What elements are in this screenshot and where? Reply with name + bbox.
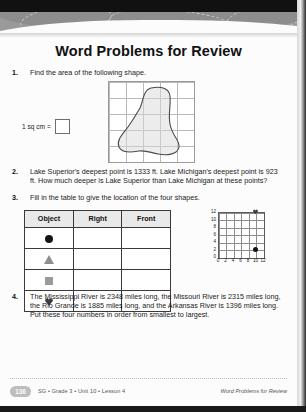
problem-1-figure: 1 sq cm = <box>0 79 297 165</box>
triangle-shape-icon <box>44 255 54 264</box>
y-tick-label: 10 <box>205 217 216 222</box>
page-number-badge: 136 <box>10 386 31 397</box>
footer-lesson-title: Word Problems for Review <box>220 388 287 394</box>
y-tick-label: 12 <box>205 209 216 214</box>
problem-2: 2. Lake Superior's deepest point is 1333… <box>10 167 283 185</box>
right-cell-triangle[interactable] <box>73 248 122 269</box>
worksheet-content: Word Problems for Review 1. Find the are… <box>0 40 297 412</box>
circle-point-marker-icon <box>253 247 258 252</box>
area-answer-box[interactable] <box>55 119 70 134</box>
y-tick-label: 4 <box>205 239 216 244</box>
page-footer: 136 SG • Grade 3 • Unit 10 • Lesson 4 Wo… <box>10 383 287 399</box>
column-header-front: Front <box>122 210 171 227</box>
footer-source-line: SG • Grade 3 • Unit 10 • Lesson 4 <box>38 388 125 394</box>
irregular-shape-blob-icon <box>112 84 190 160</box>
y-tick-label: 6 <box>205 232 216 237</box>
coordinate-grid-chart: 024681012 024681012 <box>205 210 263 268</box>
front-cell-circle[interactable] <box>122 227 171 248</box>
table-row <box>25 269 171 290</box>
worksheet-page: Word Problems for Review 1. Find the are… <box>0 0 306 412</box>
problem-2-number: 2. <box>12 167 18 176</box>
column-header-object: Object <box>25 210 74 227</box>
y-tick-label: 2 <box>205 247 216 252</box>
problem-2-text: Lake Superior's deepest point is 1333 ft… <box>30 167 283 185</box>
problem-1-number: 1. <box>12 68 18 77</box>
area-unit-label: 1 sq cm = <box>22 123 51 130</box>
problem-3-text: Fill in the table to give the location o… <box>30 193 283 202</box>
area-unit-legend: 1 sq cm = <box>22 119 70 134</box>
coordinate-plot-area <box>218 212 265 259</box>
problem-4: 4. The Mississippi River is 2348 miles l… <box>10 292 283 320</box>
table-row <box>25 227 171 248</box>
object-cell-triangle <box>25 248 74 269</box>
square-shape-icon <box>45 277 53 285</box>
right-cell-circle[interactable] <box>73 227 122 248</box>
page-title: Word Problems for Review <box>0 43 297 59</box>
right-cell-square[interactable] <box>73 269 122 290</box>
table-row <box>25 248 171 269</box>
problem-1: 1. Find the area of the following shape. <box>10 68 283 77</box>
table-header-row: Object Right Front <box>25 210 171 227</box>
footer-divider <box>10 378 287 379</box>
column-header-right: Right <box>73 210 122 227</box>
object-cell-circle <box>25 227 74 248</box>
front-cell-square[interactable] <box>122 269 171 290</box>
y-tick-label: 8 <box>205 224 216 229</box>
scan-top-edge <box>0 0 306 12</box>
problem-3: 3. Fill in the table to give the locatio… <box>10 193 283 202</box>
problem-4-text: The Mississippi River is 2348 miles long… <box>30 292 283 320</box>
scan-bottom-edge <box>0 406 306 412</box>
front-cell-triangle[interactable] <box>122 248 171 269</box>
scan-right-edge <box>297 0 306 412</box>
problem-4-number: 4. <box>12 292 18 301</box>
object-cell-square <box>25 269 74 290</box>
circle-shape-icon <box>45 235 53 243</box>
problem-3-number: 3. <box>12 193 18 202</box>
problem-1-text: Find the area of the following shape. <box>30 68 283 77</box>
band-shadow <box>0 33 297 38</box>
problem-3-figure: Object Right Front <box>0 206 297 286</box>
x-tick-label: 12 <box>259 258 267 263</box>
